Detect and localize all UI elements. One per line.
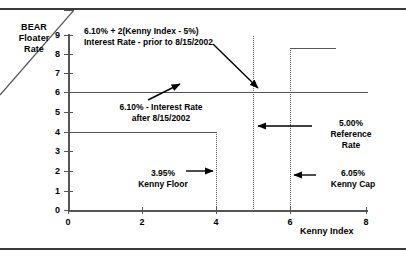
x-axis-line	[68, 210, 368, 212]
y-tick-9	[64, 35, 73, 36]
annotation-formula-prior: 6.10% + 2(Kenny Index - 5%) Interest Rat…	[84, 26, 213, 48]
annotation-formula-after-line2: after 8/15/2002	[85, 113, 237, 124]
bear-floater-rate-chart: BEAR Floater Rate 9 8 7 6 5 4 3 2 1 0 0 …	[0, 10, 406, 248]
annotation-reference-rate-line1: 5.00%	[318, 118, 384, 129]
annotation-reference-rate: 5.00% Reference Rate	[318, 118, 384, 151]
annotation-kenny-cap-line1: 6.05%	[322, 168, 384, 179]
annotation-kenny-cap-line2: Kenny Cap	[322, 179, 384, 190]
kenny-floor-segment	[68, 132, 216, 133]
y-tick-2	[64, 171, 73, 172]
reference-rate-guide-line	[253, 36, 254, 211]
reference-rate-line	[68, 92, 368, 93]
annotation-formula-prior-line1: 6.10% + 2(Kenny Index - 5%)	[84, 26, 213, 37]
x-tick-label-4: 4	[206, 217, 226, 227]
annotation-kenny-floor: 3.95% Kenny Floor	[128, 168, 198, 190]
x-tick-8	[366, 207, 367, 214]
y-axis-line	[68, 34, 70, 211]
y-tick-label-2: 2	[46, 167, 60, 176]
y-tick-label-3: 3	[46, 147, 60, 156]
y-tick-label-5: 5	[46, 108, 60, 117]
y-tick-label-0: 0	[46, 206, 60, 215]
x-tick-label-0: 0	[58, 217, 78, 227]
y-tick-5	[64, 112, 73, 113]
annotation-reference-rate-line3: Rate	[318, 140, 384, 151]
annotation-formula-after: 6.10% - Interest Rate after 8/15/2002	[85, 102, 237, 124]
annotation-kenny-floor-line1: 3.95%	[128, 168, 198, 179]
y-tick-label-4: 4	[46, 128, 60, 137]
x-tick-0	[68, 207, 69, 214]
y-tick-7b	[64, 73, 73, 74]
x-tick-2	[142, 207, 143, 214]
annotation-kenny-cap: 6.05% Kenny Cap	[322, 168, 384, 190]
annotation-reference-rate-line2: Reference	[318, 129, 384, 140]
y-tick-label-7: 7	[46, 69, 60, 78]
y-tick-1	[64, 191, 73, 192]
y-tick-3	[64, 151, 73, 152]
kenny-cap-guide-line	[290, 48, 291, 211]
y-tick-label-8: 8	[46, 50, 60, 59]
x-tick-label-8: 8	[356, 217, 376, 227]
annotation-formula-after-line1: 6.10% - Interest Rate	[85, 102, 237, 113]
x-axis-title: Kenny Index	[300, 226, 354, 236]
arrow-formula-prior	[213, 44, 258, 88]
y-tick-7	[64, 10, 73, 11]
y-tick-label-9: 9	[46, 31, 60, 40]
kenny-floor-guide-line	[216, 132, 217, 211]
y-tick-label-6: 6	[46, 88, 60, 97]
y-tick-label-1: 1	[46, 187, 60, 196]
kenny-cap-segment	[290, 48, 336, 49]
x-tick-label-6: 6	[280, 217, 300, 227]
page-rule-bottom	[0, 248, 406, 250]
x-tick-label-2: 2	[132, 217, 152, 227]
annotation-formula-prior-line2: Interest Rate - prior to 8/15/2002	[84, 37, 213, 48]
y-tick-8	[64, 54, 73, 55]
annotation-kenny-floor-line2: Kenny Floor	[128, 179, 198, 190]
